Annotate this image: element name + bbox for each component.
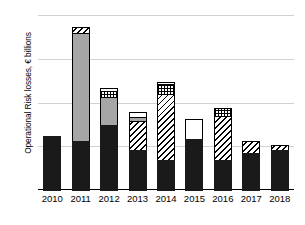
bar-stack-2014 — [157, 82, 175, 190]
bar-stack-2011 — [72, 27, 90, 190]
bar-segment-2017-segment-1-black — [242, 153, 260, 191]
bar-stack-2013 — [129, 112, 147, 190]
bar-segment-2018-segment-1-black — [271, 150, 289, 191]
bar-segment-2015-segment-1-black — [185, 139, 203, 192]
bar-segment-2014-segment-1-black — [157, 160, 175, 191]
bars-layer — [38, 15, 294, 190]
bar-segment-2013-segment-2-hatch — [129, 121, 147, 152]
x-tick-label-2018: 2018 — [260, 193, 300, 204]
plot-area: 60 45 30 15 0 — [38, 15, 294, 190]
y-axis-title: Operational Risk losses, € billions — [23, 3, 33, 183]
bar-segment-2012-segment-1-black — [100, 125, 118, 191]
bar-stack-2018 — [271, 145, 289, 190]
bar-segment-2013-segment-1-black — [129, 150, 147, 191]
bar-stack-2015 — [185, 119, 203, 190]
bar-segment-2015-segment-5-white — [185, 119, 203, 139]
bar-stack-2016 — [214, 108, 232, 190]
bar-segment-2011-segment-1-black — [72, 141, 90, 191]
bar-segment-2016-segment-2-hatch — [214, 116, 232, 161]
bar-stack-2010 — [43, 136, 61, 190]
bar-stack-2017 — [242, 141, 260, 190]
bar-segment-2014-segment-2-hatch — [157, 94, 175, 161]
bar-segment-2010-segment-1-black — [43, 136, 61, 191]
operational-risk-losses-bar-chart: Operational Risk losses, € billions 60 4… — [0, 0, 305, 225]
bar-segment-2011-segment-3-gray — [72, 33, 90, 142]
x-axis-labels: 201020112012201320142015201620172018 — [38, 193, 294, 213]
bar-segment-2016-segment-1-black — [214, 160, 232, 191]
bar-stack-2012 — [100, 88, 118, 190]
bar-segment-2012-segment-3-gray — [100, 97, 118, 126]
